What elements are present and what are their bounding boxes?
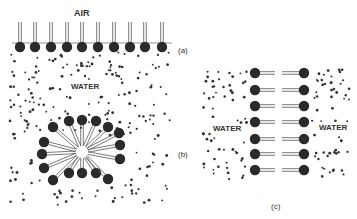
monolayer-panel-a — [12, 22, 172, 52]
polar-head — [250, 85, 260, 95]
polar-head — [299, 68, 309, 78]
water-label-top: WATER — [71, 82, 99, 91]
polar-head — [91, 168, 101, 178]
polar-head — [48, 122, 58, 132]
panel-c-label: (c) — [271, 202, 280, 211]
polar-head — [299, 117, 309, 127]
panel-a-label: (a) — [178, 46, 188, 55]
polar-head — [30, 42, 40, 52]
polar-head — [39, 163, 49, 173]
polar-head — [103, 122, 113, 132]
polar-head — [125, 42, 135, 52]
polar-head — [48, 175, 58, 185]
polar-head — [62, 42, 72, 52]
polar-head — [15, 42, 25, 52]
polar-head — [109, 42, 119, 52]
polar-head — [46, 42, 56, 52]
polar-head — [77, 115, 87, 125]
polar-head — [115, 154, 125, 164]
polar-head — [250, 68, 260, 78]
polar-head — [77, 168, 87, 178]
polar-head — [250, 117, 260, 127]
polar-head — [250, 101, 260, 111]
polar-head — [299, 134, 309, 144]
polar-head — [93, 42, 103, 52]
water-label-left: WATER — [213, 124, 241, 133]
panel-b-label: (b) — [178, 150, 188, 159]
polar-head — [77, 42, 87, 52]
surfactant-diagram — [0, 0, 357, 219]
polar-head — [250, 149, 260, 159]
polar-head — [103, 174, 113, 184]
polar-head — [91, 116, 101, 126]
polar-head — [115, 140, 125, 150]
polar-head — [299, 85, 309, 95]
polar-head — [157, 42, 167, 52]
polar-head — [140, 42, 150, 52]
air-label: AIR — [74, 8, 90, 18]
polar-head — [114, 128, 124, 138]
bilayer-panel-c — [250, 68, 309, 175]
polar-head — [299, 165, 309, 175]
polar-head — [299, 101, 309, 111]
micelle-panel-b — [37, 115, 125, 185]
polar-head — [37, 149, 47, 159]
polar-head — [64, 168, 74, 178]
polar-head — [250, 134, 260, 144]
water-label-right: WATER — [319, 123, 347, 132]
polar-head — [64, 116, 74, 126]
polar-head — [250, 165, 260, 175]
polar-head — [299, 149, 309, 159]
polar-head — [39, 137, 49, 147]
